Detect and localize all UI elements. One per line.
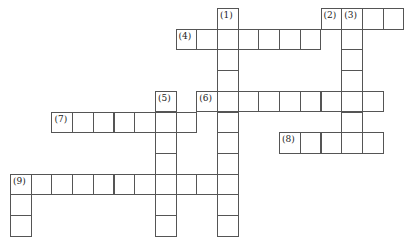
grid-cell[interactable]: (8) (279, 132, 301, 154)
grid-cell[interactable] (155, 132, 177, 154)
grid-cell[interactable] (217, 91, 239, 113)
clue-number: (7) (54, 114, 67, 124)
clue-number: (4) (179, 31, 192, 41)
clue-number: (1) (220, 10, 233, 20)
grid-cell[interactable] (176, 174, 198, 196)
grid-cell[interactable]: (2) (321, 8, 343, 30)
grid-cell[interactable] (155, 194, 177, 216)
grid-cell[interactable] (217, 70, 239, 92)
grid-cell[interactable] (217, 153, 239, 175)
grid-cell[interactable] (155, 215, 177, 237)
grid-cell[interactable] (217, 215, 239, 237)
grid-cell[interactable] (196, 29, 218, 51)
grid-cell[interactable] (279, 29, 301, 51)
grid-cell[interactable] (31, 174, 53, 196)
grid-cell[interactable] (362, 132, 384, 154)
grid-cell[interactable] (217, 49, 239, 71)
grid-cell[interactable] (93, 112, 115, 134)
grid-cell[interactable] (300, 29, 322, 51)
grid-cell[interactable] (279, 91, 301, 113)
grid-cell[interactable] (300, 91, 322, 113)
grid-cell[interactable]: (7) (51, 112, 73, 134)
clue-number: (9) (13, 176, 26, 186)
grid-cell[interactable] (341, 70, 363, 92)
clue-number: (3) (344, 10, 357, 20)
grid-cell[interactable] (155, 174, 177, 196)
grid-cell[interactable] (362, 91, 384, 113)
grid-cell[interactable] (238, 91, 260, 113)
grid-cell[interactable] (72, 112, 94, 134)
grid-cell[interactable] (362, 8, 384, 30)
grid-cell[interactable]: (4) (176, 29, 198, 51)
grid-cell[interactable] (341, 112, 363, 134)
grid-cell[interactable] (72, 174, 94, 196)
grid-cell[interactable] (93, 174, 115, 196)
grid-cell[interactable] (196, 174, 218, 196)
grid-cell[interactable] (134, 174, 156, 196)
grid-cell[interactable] (114, 174, 136, 196)
grid-cell[interactable] (176, 112, 198, 134)
grid-cell[interactable] (258, 29, 280, 51)
grid-cell[interactable]: (1) (217, 8, 239, 30)
grid-cell[interactable] (10, 215, 32, 237)
grid-cell[interactable] (217, 29, 239, 51)
grid-cell[interactable]: (6) (196, 91, 218, 113)
clue-number: (5) (158, 93, 171, 103)
grid-cell[interactable]: (9) (10, 174, 32, 196)
grid-cell[interactable] (155, 153, 177, 175)
grid-cell[interactable] (10, 194, 32, 216)
grid-cell[interactable] (238, 29, 260, 51)
grid-cell[interactable] (217, 112, 239, 134)
grid-cell[interactable] (217, 174, 239, 196)
grid-cell[interactable] (114, 112, 136, 134)
grid-cell[interactable] (155, 112, 177, 134)
grid-cell[interactable] (383, 8, 405, 30)
grid-cell[interactable] (321, 132, 343, 154)
crossword-grid: (1)(2)(3)(4)(5)(6)(7)(8)(9) (0, 0, 415, 242)
grid-cell[interactable] (134, 112, 156, 134)
grid-cell[interactable] (51, 174, 73, 196)
grid-cell[interactable]: (3) (341, 8, 363, 30)
clue-number: (2) (324, 10, 337, 20)
grid-cell[interactable] (321, 91, 343, 113)
grid-cell[interactable] (217, 194, 239, 216)
grid-cell[interactable] (300, 132, 322, 154)
grid-cell[interactable] (341, 49, 363, 71)
grid-cell[interactable] (341, 132, 363, 154)
grid-cell[interactable] (341, 29, 363, 51)
grid-cell[interactable] (217, 132, 239, 154)
grid-cell[interactable] (341, 91, 363, 113)
grid-cell[interactable] (258, 91, 280, 113)
clue-number: (8) (282, 134, 295, 144)
grid-cell[interactable]: (5) (155, 91, 177, 113)
clue-number: (6) (199, 93, 212, 103)
